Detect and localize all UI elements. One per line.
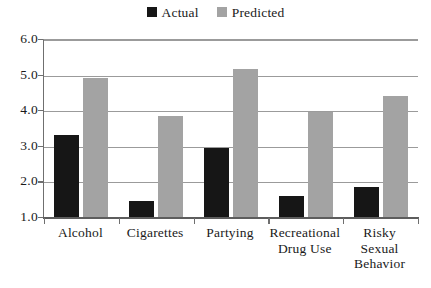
y-tick-label: 2.0	[0, 174, 38, 188]
x-tick-mark	[44, 218, 45, 224]
bar-actual	[279, 196, 304, 217]
y-tick-mark	[38, 217, 43, 218]
bar-group	[119, 39, 194, 217]
legend-swatch-icon	[217, 7, 227, 17]
x-category-label: Partying	[187, 225, 274, 241]
x-category-label-line: Recreational	[261, 225, 348, 241]
x-category-label: RiskySexualBehavior	[336, 225, 423, 272]
bar-chart-figure: ActualPredicted 6.05.04.03.02.01.0 Alcoh…	[0, 0, 431, 288]
x-category-label: RecreationalDrug Use	[261, 225, 348, 256]
legend-label: Predicted	[232, 6, 285, 19]
x-tick-mark	[194, 218, 195, 224]
y-tick-label: 4.0	[0, 103, 38, 117]
y-axis: 6.05.04.03.02.01.0	[0, 31, 38, 226]
x-axis-line	[43, 217, 419, 219]
y-tick-label: 3.0	[0, 139, 38, 153]
bar-actual	[54, 135, 79, 217]
x-category-label-line: Risky	[336, 225, 423, 241]
bar-group	[268, 39, 343, 217]
x-category-label-line: Drug Use	[261, 241, 348, 257]
bar-predicted	[233, 69, 258, 217]
y-tick-mark	[38, 39, 43, 40]
y-tick-mark	[38, 75, 43, 76]
bar-actual	[129, 201, 154, 217]
y-tick-label: 6.0	[0, 32, 38, 46]
legend-swatch-icon	[147, 7, 157, 17]
bar-actual	[354, 187, 379, 217]
bar-predicted	[83, 78, 108, 217]
chart-legend: ActualPredicted	[0, 2, 431, 22]
x-category-label: Alcohol	[37, 225, 124, 241]
legend-label: Actual	[162, 6, 199, 19]
x-category-label-line: Cigarettes	[112, 225, 199, 241]
bar-group	[44, 39, 119, 217]
x-tick-mark	[119, 218, 120, 224]
x-tick-mark	[343, 218, 344, 224]
x-tick-mark	[418, 218, 419, 224]
bar-predicted	[158, 116, 183, 217]
x-category-label-line: Partying	[187, 225, 274, 241]
y-tick-mark	[38, 181, 43, 182]
y-tick-label: 1.0	[0, 210, 38, 224]
y-tick-mark	[38, 110, 43, 111]
x-category-label-line: Sexual	[336, 241, 423, 257]
y-tick-label: 5.0	[0, 68, 38, 82]
x-category-label-line: Alcohol	[37, 225, 124, 241]
bar-group	[343, 39, 418, 217]
legend-entry-actual: Actual	[147, 6, 199, 19]
bar-predicted	[308, 112, 333, 217]
x-category-label-line: Behavior	[336, 256, 423, 272]
x-tick-mark	[268, 218, 269, 224]
bars-layer	[44, 39, 418, 217]
x-category-label: Cigarettes	[112, 225, 199, 241]
legend-entry-predicted: Predicted	[217, 6, 285, 19]
bar-group	[194, 39, 269, 217]
y-tick-mark	[38, 146, 43, 147]
bar-actual	[204, 148, 229, 217]
bar-predicted	[383, 96, 408, 217]
x-axis: AlcoholCigarettesPartyingRecreationalDru…	[43, 225, 419, 287]
